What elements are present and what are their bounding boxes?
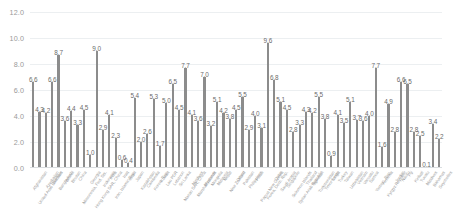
- bar[interactable]: 3.6: [362, 121, 364, 168]
- bar[interactable]: 4.9: [387, 104, 389, 168]
- bar[interactable]: 3.7: [356, 120, 358, 168]
- bar[interactable]: 2.8: [292, 132, 294, 168]
- y-axis-tick-label: 6.0: [14, 86, 24, 95]
- bar[interactable]: 3.6: [64, 121, 66, 168]
- bar[interactable]: 4.1: [191, 115, 193, 168]
- bar[interactable]: 5.4: [134, 98, 136, 168]
- bar[interactable]: 5.3: [153, 99, 155, 168]
- bar[interactable]: 4.5: [235, 110, 237, 169]
- bar[interactable]: 6.6: [32, 82, 34, 168]
- bar[interactable]: 6.5: [406, 84, 408, 169]
- bar[interactable]: 2.8: [394, 132, 396, 168]
- bar[interactable]: 6.6: [400, 82, 402, 168]
- bar[interactable]: 4.3: [305, 112, 307, 168]
- bar[interactable]: 4.0: [254, 116, 256, 168]
- y-axis: 12.010.08.06.04.02.00.0: [0, 12, 28, 168]
- bar[interactable]: 6.8: [273, 80, 275, 168]
- y-axis-tick-label: 4.0: [14, 112, 24, 121]
- bar[interactable]: 3.5: [343, 123, 345, 169]
- y-axis-tick-label: 0.0: [14, 164, 24, 173]
- bar[interactable]: 2.2: [438, 139, 440, 168]
- bar[interactable]: 9.0: [96, 51, 98, 168]
- bar[interactable]: 2.5: [419, 136, 421, 169]
- bar[interactable]: 2.0: [140, 142, 142, 168]
- bar[interactable]: 8.7: [57, 55, 59, 168]
- bar[interactable]: 3.4: [432, 124, 434, 168]
- bar[interactable]: 5.1: [279, 102, 281, 168]
- bar[interactable]: 2.6: [146, 134, 148, 168]
- x-axis-slot: Seychelles: [436, 169, 442, 224]
- bar[interactable]: 5.1: [349, 102, 351, 168]
- bar[interactable]: 3.8: [324, 119, 326, 168]
- bar[interactable]: 5.5: [318, 97, 320, 169]
- bar[interactable]: 4.0: [368, 116, 370, 168]
- bar[interactable]: 2.3: [115, 138, 117, 168]
- bar[interactable]: 3.2: [210, 126, 212, 168]
- bar-series: 6.64.34.26.68.73.64.43.34.51.09.02.94.12…: [30, 12, 442, 168]
- bar[interactable]: 2.9: [248, 130, 250, 168]
- plot-area: 6.64.34.26.68.73.64.43.34.51.09.02.94.12…: [30, 12, 442, 168]
- y-axis-tick-label: 8.0: [14, 60, 24, 69]
- bar[interactable]: 4.1: [108, 115, 110, 168]
- bar[interactable]: 1.6: [381, 147, 383, 168]
- bar[interactable]: 3.6: [197, 121, 199, 168]
- bar[interactable]: 4.3: [38, 112, 40, 168]
- bar[interactable]: 4.2: [222, 113, 224, 168]
- bar[interactable]: 4.4: [70, 111, 72, 168]
- bar[interactable]: 4.2: [45, 113, 47, 168]
- bar[interactable]: 3.8: [229, 119, 231, 168]
- bar[interactable]: 5.0: [165, 103, 167, 168]
- bar[interactable]: 3.3: [299, 125, 301, 168]
- bar[interactable]: 4.5: [83, 110, 85, 169]
- bar[interactable]: 3.1: [260, 128, 262, 168]
- y-axis-tick-label: 12.0: [10, 8, 24, 17]
- bar[interactable]: 5.1: [216, 102, 218, 168]
- bar-value-label: 2.2: [435, 133, 444, 140]
- x-axis-line: [30, 167, 442, 168]
- y-axis-tick-label: 10.0: [10, 34, 24, 43]
- bar[interactable]: 7.0: [203, 77, 205, 168]
- bar[interactable]: 3.3: [76, 125, 78, 168]
- bar[interactable]: 6.5: [172, 84, 174, 169]
- bar[interactable]: 1.7: [159, 146, 161, 168]
- y-axis-tick-label: 2.0: [14, 138, 24, 147]
- bar[interactable]: 4.5: [178, 110, 180, 169]
- bar[interactable]: 5.5: [241, 97, 243, 169]
- bar[interactable]: 7.7: [184, 68, 186, 168]
- bar-slot: 2.2: [436, 12, 442, 168]
- bar[interactable]: 7.7: [375, 68, 377, 168]
- bar[interactable]: 4.5: [286, 110, 288, 169]
- bar[interactable]: 4.2: [311, 113, 313, 168]
- x-axis-labels: AfghanistanUnited Arab EmiratesAzerbaija…: [30, 169, 442, 224]
- bar[interactable]: 2.9: [102, 130, 104, 168]
- bar[interactable]: 9.6: [267, 43, 269, 168]
- bar[interactable]: 6.6: [51, 82, 53, 168]
- bar[interactable]: 2.8: [413, 132, 415, 168]
- bar[interactable]: 4.1: [337, 115, 339, 168]
